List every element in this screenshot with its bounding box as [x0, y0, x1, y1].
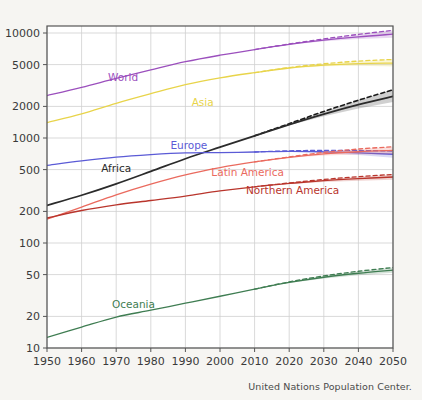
x-tick-label: 2010 — [241, 355, 269, 368]
x-tick-label: 1970 — [102, 355, 130, 368]
series-label-asia: Asia — [192, 96, 214, 108]
x-tick-label: 1980 — [137, 355, 165, 368]
series-label-africa: Africa — [101, 162, 131, 174]
series-label-europe: Europe — [170, 139, 207, 151]
y-tick-label: 10 — [26, 342, 40, 355]
y-tick-label: 50 — [26, 269, 40, 282]
x-tick-label: 2030 — [310, 355, 338, 368]
x-tick-label: 1990 — [171, 355, 199, 368]
series-label-northern-america: Northern America — [246, 184, 339, 196]
chart-caption: United Nations Population Center. — [248, 381, 412, 392]
y-tick-label: 20 — [26, 310, 40, 323]
y-tick-label: 500 — [19, 164, 40, 177]
series-label-latin-america: Latin America — [211, 166, 284, 178]
y-tick-label: 2000 — [12, 100, 40, 113]
x-tick-label: 2020 — [275, 355, 303, 368]
chart-canvas: WorldAsiaAfricaEuropeLatin AmericaNorthe… — [0, 0, 422, 400]
x-tick-label: 2000 — [206, 355, 234, 368]
x-tick-label: 1950 — [33, 355, 61, 368]
y-tick-label: 100 — [19, 237, 40, 250]
series-label-world: World — [108, 71, 138, 83]
y-tick-label: 5000 — [12, 59, 40, 72]
x-tick-label: 1960 — [68, 355, 96, 368]
series-label-oceania: Oceania — [112, 298, 155, 310]
y-tick-label: 1000 — [12, 132, 40, 145]
population-chart: WorldAsiaAfricaEuropeLatin AmericaNorthe… — [0, 0, 422, 400]
x-tick-label: 2050 — [379, 355, 407, 368]
y-tick-label: 10000 — [5, 27, 40, 40]
y-tick-label: 200 — [19, 205, 40, 218]
x-tick-label: 2040 — [344, 355, 372, 368]
